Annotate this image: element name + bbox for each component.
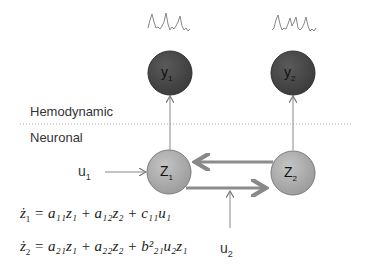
z1-subscript: 1 [169,173,173,182]
y1-letter: y [161,64,168,80]
eq2-lhs-sub: 2 [26,247,31,257]
node-y2-label: y2 [284,64,295,83]
node-z2-label: Z2 [284,164,297,183]
y2-subscript: 2 [291,74,295,83]
node-y1-label: y1 [161,64,172,83]
u2-letter: u [220,240,228,256]
u2-subscript: 2 [228,249,233,259]
layer-label-hemodynamic: Hemodynamic [30,104,113,119]
input-u1-label: u1 [78,163,91,182]
bold-signal-1 [148,13,190,31]
equation-1: ż1 = a₁₁z₁ + a₁₂z₂ + c₁₁u₁ [20,205,171,224]
z1-letter: Z [160,163,169,179]
layer-label-neuronal: Neuronal [30,130,83,145]
bold-signal-2 [272,15,316,31]
eq1-lhs-sub: 1 [26,214,31,224]
input-u2-label: u2 [220,240,233,259]
node-z1-label: Z1 [160,163,173,182]
z2-subscript: 2 [293,174,297,183]
eq1-rhs: = a₁₁z₁ + a₁₂z₂ + c₁₁u₁ [34,205,171,221]
y2-letter: y [284,64,291,80]
y1-subscript: 1 [168,74,172,83]
z2-letter: Z [284,164,293,180]
u1-letter: u [78,163,86,179]
eq2-rhs: = a₂₁z₁ + a₂₂z₂ + b²₂₁u₂z₁ [34,238,187,254]
u1-subscript: 1 [86,172,91,182]
equation-2: ż2 = a₂₁z₁ + a₂₂z₂ + b²₂₁u₂z₁ [20,238,187,257]
